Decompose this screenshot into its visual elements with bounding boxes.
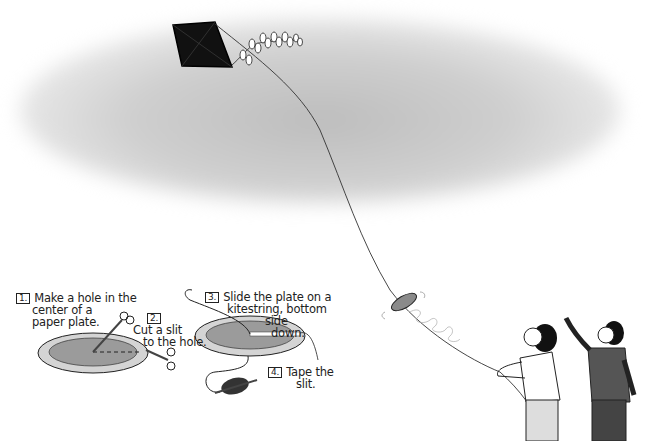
kite-icon bbox=[173, 22, 232, 67]
boy-figure bbox=[566, 318, 634, 441]
kite-tail-icon bbox=[232, 32, 303, 65]
step-2-label: 2. Cut a slit to the hole. bbox=[133, 312, 207, 348]
step-4-label: 4.Tape the slit. bbox=[268, 366, 334, 390]
girl-figure bbox=[497, 324, 560, 441]
step-1-label: 1.Make a hole in the center of a paper p… bbox=[16, 292, 137, 328]
scissors-icon bbox=[146, 348, 175, 370]
messenger-plate-icon bbox=[382, 290, 460, 342]
kite-string bbox=[215, 24, 545, 435]
step-3-label: 3.Slide the plate on a kitestring, botto… bbox=[205, 291, 331, 339]
string-spool-icon bbox=[206, 356, 257, 397]
